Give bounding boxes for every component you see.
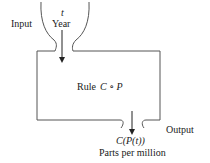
rule-expression: C ∘ P — [100, 81, 123, 92]
rule-prefix: Rule — [77, 81, 96, 92]
input-label: Input — [11, 18, 32, 29]
input-funnel-right — [72, 2, 89, 51]
input-description: Year — [52, 18, 71, 29]
function-machine-diagram: Input t Year Rule C ∘ P Output C(P(t)) P… — [0, 0, 210, 163]
output-description: Parts per million — [99, 147, 166, 158]
output-label: Output — [166, 124, 194, 135]
input-variable: t — [61, 7, 64, 18]
output-expression: C(P(t)) — [116, 135, 146, 147]
